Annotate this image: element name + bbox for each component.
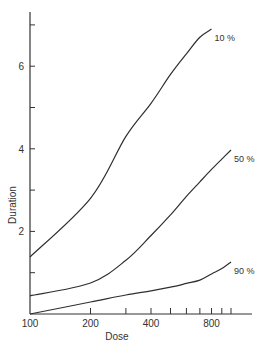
curve-50pct	[30, 150, 231, 296]
x-tick-label: 200	[82, 318, 99, 329]
x-ticks: 100200400800	[22, 308, 231, 329]
y-tick-label: 6	[18, 61, 24, 72]
curve-label: 10 %	[215, 33, 236, 43]
y-tick-label: 4	[18, 144, 24, 155]
curve-label: 50 %	[234, 154, 255, 164]
curve-labels: 10 %50 %90 %	[215, 33, 255, 276]
x-tick-label: 400	[143, 318, 160, 329]
y-tick-label: 2	[18, 226, 24, 237]
curves	[30, 29, 231, 314]
y-ticks: 246	[18, 25, 35, 273]
y-axis-label: Duration	[7, 186, 18, 224]
x-tick-label: 100	[22, 318, 39, 329]
dose-duration-chart: 246 100200400800 10 %50 %90 % Dose Durat…	[0, 0, 266, 353]
curve-10pct	[30, 29, 212, 257]
x-tick-label: 800	[203, 318, 220, 329]
curve-label: 90 %	[234, 266, 255, 276]
curve-90pct	[30, 262, 231, 314]
x-axis-label: Dose	[105, 331, 129, 342]
